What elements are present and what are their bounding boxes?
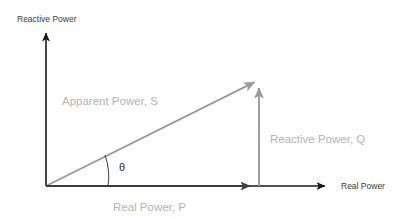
reactive-power-label: Reactive Power, Q	[270, 133, 365, 145]
phase-angle-theta-label: θ	[119, 161, 125, 173]
phase-angle-arc	[105, 155, 109, 186]
real-power-label: Real Power, P	[113, 201, 186, 213]
apparent-power-label: Apparent Power, S	[62, 95, 158, 107]
vertical-axis-label: Reactive Power	[17, 14, 77, 24]
power-triangle-canvas: Reactive Power Real Power Apparent Power…	[0, 0, 405, 219]
horizontal-axis-label: Real Power	[341, 181, 385, 191]
power-triangle-diagram: Reactive Power Real Power Apparent Power…	[0, 0, 405, 219]
